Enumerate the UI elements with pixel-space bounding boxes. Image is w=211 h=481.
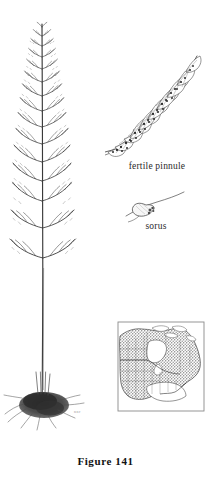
distribution-map-illustration	[118, 322, 204, 411]
figure-caption: Figure 141	[0, 455, 211, 467]
plate-artwork	[0, 0, 211, 481]
whole-frond-illustration	[4, 22, 84, 430]
label-sorus: sorus	[125, 221, 187, 231]
illustration-plate: fertile pinnule sorus nnr Figure 141	[0, 0, 211, 481]
sorus-illustration	[126, 192, 184, 222]
fertile-pinnule-illustration	[105, 56, 201, 156]
artist-signature: nnr	[74, 409, 81, 414]
rhizome-root-mass	[4, 372, 84, 430]
label-fertile-pinnule: fertile pinnule	[107, 161, 207, 171]
